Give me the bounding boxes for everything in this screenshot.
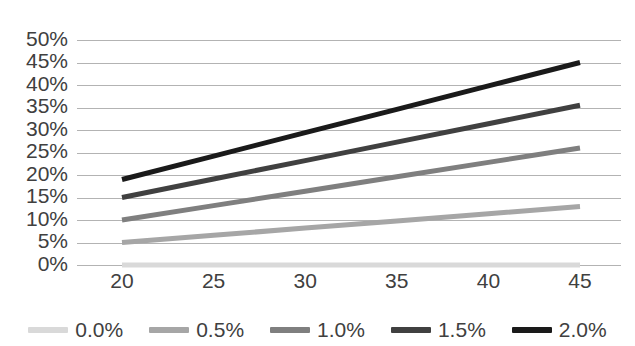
y-axis-tick-label: 45% <box>26 49 68 72</box>
y-axis-tick-label: 50% <box>26 27 68 50</box>
legend-item-label: 2.0% <box>559 319 607 340</box>
legend-swatch-icon <box>512 327 552 333</box>
legend-item[interactable]: 0.0% <box>28 319 123 340</box>
legend-item-label: 0.5% <box>196 319 244 340</box>
y-axis-tick-label: 10% <box>26 207 68 230</box>
legend-swatch-icon <box>270 327 310 333</box>
chart-legend: 0.0%0.5%1.0%1.5%2.0% <box>0 319 635 340</box>
x-axis-tick-label: 45 <box>568 269 591 292</box>
y-axis-tick-label: 0% <box>38 252 68 275</box>
y-axis-tick-label: 20% <box>26 162 68 185</box>
legend-item[interactable]: 1.5% <box>391 319 486 340</box>
legend-item[interactable]: 2.0% <box>512 319 607 340</box>
line-chart: 50%45%40%35%30%25%20%15%10%5%0% 20253035… <box>0 0 635 346</box>
y-axis-tick-label: 25% <box>26 139 68 162</box>
y-axis-tick-label: 30% <box>26 117 68 140</box>
series-group <box>122 63 580 266</box>
y-axis-tick-labels: 50%45%40%35%30%25%20%15%10%5%0% <box>26 27 68 275</box>
y-axis-tick-label: 15% <box>26 184 68 207</box>
y-axis-tick-label: 5% <box>38 229 68 252</box>
legend-item[interactable]: 1.0% <box>270 319 365 340</box>
x-axis-tick-labels: 202530354045 <box>110 269 591 292</box>
x-axis-tick-label: 40 <box>477 269 500 292</box>
y-axis-tick-label: 40% <box>26 72 68 95</box>
x-axis-tick-label: 30 <box>294 269 317 292</box>
legend-item-label: 1.0% <box>317 319 365 340</box>
legend-item[interactable]: 0.5% <box>149 319 244 340</box>
legend-swatch-icon <box>28 327 68 333</box>
y-axis-tick-label: 35% <box>26 94 68 117</box>
x-axis-tick-label: 35 <box>385 269 408 292</box>
x-axis-tick-label: 25 <box>202 269 225 292</box>
series-line-05 <box>122 207 580 243</box>
legend-swatch-icon <box>391 327 431 333</box>
legend-item-label: 0.0% <box>75 319 123 340</box>
chart-plot-area: 50%45%40%35%30%25%20%15%10%5%0% 20253035… <box>0 0 635 346</box>
x-axis-tick-label: 20 <box>110 269 133 292</box>
legend-swatch-icon <box>149 327 189 333</box>
legend-item-label: 1.5% <box>438 319 486 340</box>
